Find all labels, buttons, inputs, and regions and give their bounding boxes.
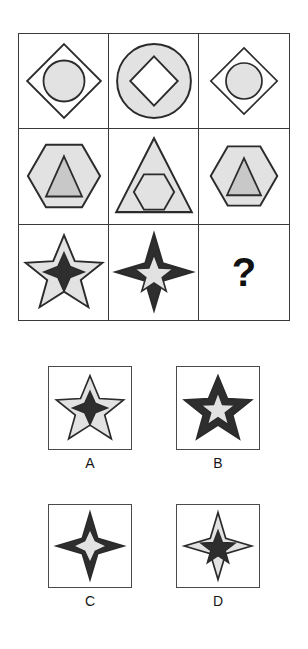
diamond-with-circle-icon: [23, 40, 105, 122]
option-a[interactable]: A: [48, 366, 132, 471]
option-c-label: C: [48, 593, 132, 609]
option-d[interactable]: D: [176, 504, 260, 609]
option-b-label: B: [176, 455, 260, 471]
option-c-box[interactable]: [48, 504, 132, 588]
matrix-grid: ?: [18, 33, 290, 321]
option-a-box[interactable]: [48, 366, 132, 450]
option-c[interactable]: C: [48, 504, 132, 609]
star5-with-star4-icon: [24, 232, 104, 312]
option-a-label: A: [48, 455, 132, 471]
matrix-cell-r1c1[interactable]: [19, 34, 109, 129]
star4-with-star4-icon: [55, 511, 125, 581]
star5-with-star4-icon: [55, 373, 125, 443]
circle-with-diamond-icon: [113, 40, 195, 122]
matrix-cell-r3c1[interactable]: [19, 225, 109, 320]
hexagon-with-triangle-icon: [23, 135, 105, 217]
star4-with-star5-icon: [114, 232, 194, 312]
matrix-cell-r2c1[interactable]: [19, 129, 109, 224]
star4-with-star5-icon: [183, 511, 253, 581]
matrix-cell-r2c2[interactable]: [109, 129, 199, 224]
triangle-with-hexagon-icon: [112, 134, 196, 218]
star5-with-star5-icon: [183, 373, 253, 443]
option-d-box[interactable]: [176, 504, 260, 588]
matrix-cell-r2c3[interactable]: [199, 129, 289, 224]
matrix-cell-r1c2[interactable]: [109, 34, 199, 129]
diamond-with-circle-icon: [208, 45, 280, 117]
answer-options: A B C D: [0, 352, 308, 642]
question-mark: ?: [232, 252, 256, 292]
option-b[interactable]: B: [176, 366, 260, 471]
matrix-cell-r3c2[interactable]: [109, 225, 199, 320]
matrix-cell-r1c3[interactable]: [199, 34, 289, 129]
matrix-cell-r3c3-missing[interactable]: ?: [199, 225, 289, 320]
option-d-label: D: [176, 593, 260, 609]
hexagon-with-triangle-icon: [207, 139, 281, 213]
option-b-box[interactable]: [176, 366, 260, 450]
